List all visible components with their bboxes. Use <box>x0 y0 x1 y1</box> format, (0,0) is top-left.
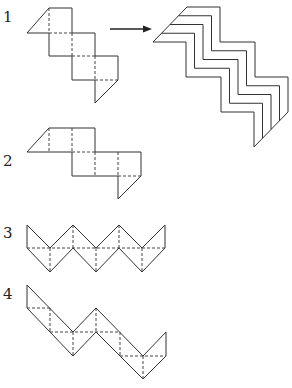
folding-diagram: 1 2 3 4 <box>0 0 292 388</box>
figure-4-net <box>27 285 166 379</box>
figure-label-2: 2 <box>3 152 13 170</box>
figure-1-net <box>27 8 118 103</box>
figure-2-net <box>27 128 141 199</box>
arrow-right-icon <box>110 26 152 33</box>
folded-result-figure <box>153 7 288 147</box>
figure-label-4: 4 <box>3 285 13 303</box>
figure-3-net <box>27 225 165 272</box>
figure-label-1: 1 <box>3 8 13 26</box>
figure-label-3: 3 <box>3 224 13 242</box>
